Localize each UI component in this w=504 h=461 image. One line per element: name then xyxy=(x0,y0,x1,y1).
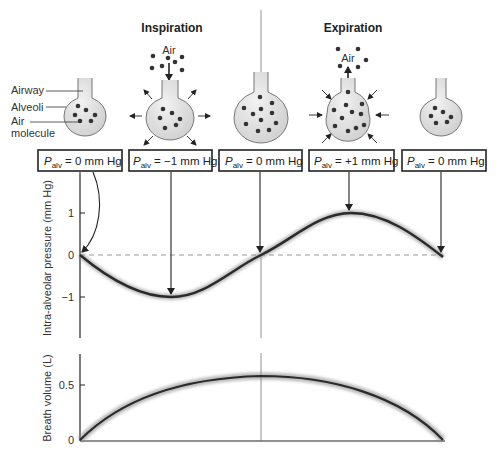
volume-curve-shadow xyxy=(80,376,443,440)
alveoli-label: Alveoli xyxy=(11,101,43,113)
pressure-ylabel: Intra-alveolar pressure (mm Hg) xyxy=(41,180,53,336)
tick-0: 0 xyxy=(68,249,74,261)
alveolus-rest-2 xyxy=(420,78,462,136)
respiration-diagram: Inspiration Expiration Airway Alveoli Ai… xyxy=(0,0,504,461)
tick-1: 1 xyxy=(68,207,74,219)
alveolus-expiration: Air xyxy=(309,47,389,143)
tick-0-5: 0.5 xyxy=(59,379,74,391)
inspiration-air-label: Air xyxy=(162,44,176,56)
air-label: Air xyxy=(11,115,25,127)
molecule-label: molecule xyxy=(11,127,55,139)
pressure-box-3: Palv = 0 mm Hg xyxy=(219,150,303,171)
expiration-air-label: Air xyxy=(341,52,355,64)
alveolus-rest-1 xyxy=(64,78,106,136)
volume-plot: Breath volume (L) 0.5 0 xyxy=(41,353,445,446)
pressure-plot: Intra-alveolar pressure (mm Hg) 1 0 −1 xyxy=(41,172,443,338)
inspiration-header: Inspiration xyxy=(141,21,202,35)
pressure-box-2: Palv = −1 mm Hg xyxy=(129,150,217,171)
tick-neg1: −1 xyxy=(61,291,74,303)
alveolus-inspiration: Air xyxy=(130,44,210,145)
volume-curve xyxy=(80,376,443,440)
pressure-box-5: Palv = 0 mm Hg xyxy=(402,150,486,171)
volume-ylabel: Breath volume (L) xyxy=(41,354,53,441)
alveolus-full xyxy=(234,72,288,143)
airway-label: Airway xyxy=(11,84,45,96)
tick-0-vol: 0 xyxy=(68,434,74,446)
pressure-box-1: Palv = 0 mm Hg xyxy=(38,150,122,171)
expiration-header: Expiration xyxy=(324,21,383,35)
pressure-box-4: Palv = +1 mm Hg xyxy=(309,150,398,171)
